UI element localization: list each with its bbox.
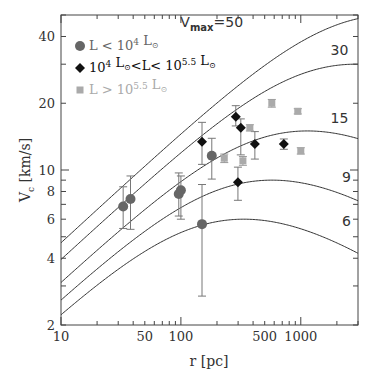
x-tick-label: 50 — [137, 329, 154, 344]
curve-label-15: 15 — [331, 110, 349, 126]
legend-text-part: L < 10 — [89, 38, 133, 53]
data-point-square — [221, 155, 228, 162]
data-point-square — [294, 108, 301, 115]
data-point-diamond — [250, 139, 260, 149]
legend-sun-symbol: ⊙ — [124, 63, 131, 72]
legend-label: L > 105.5 L⊙ — [89, 77, 167, 97]
data-point-circle — [118, 201, 128, 211]
curve-label-sub: max — [190, 22, 214, 33]
y-axis-label-units: [km/s] — [17, 138, 33, 187]
legend-text-part: L — [111, 55, 124, 70]
curve-label-9: 9 — [342, 169, 351, 185]
y-tick-label: 40 — [38, 29, 55, 44]
legend-sun-symbol: ⊙ — [160, 85, 167, 94]
y-tick-label: 6 — [47, 212, 55, 227]
y-tick-label: 20 — [38, 96, 55, 111]
data-point-diamond — [279, 139, 289, 149]
legend-text-part: 10 — [89, 60, 106, 75]
y-axis-label: Vc [km/s] — [17, 138, 36, 203]
x-axis-label: r [pc] — [190, 353, 229, 369]
x-tick-label: 100 — [168, 329, 193, 344]
error-bars — [119, 99, 305, 296]
data-point-circle — [207, 151, 217, 161]
y-tick-label: 4 — [47, 251, 55, 266]
y-tick-label: 10 — [38, 163, 55, 178]
legend-sun-symbol: ⊙ — [209, 61, 216, 70]
curve-vmax-9 — [61, 180, 358, 300]
y-axis-label-text: Vc [km/s] — [17, 138, 36, 203]
data-point-square — [268, 100, 275, 107]
data-point-diamond — [233, 177, 243, 187]
legend-text-part: L > 10 — [89, 82, 133, 97]
legend-label: L < 104 L⊙ — [89, 33, 159, 53]
data-point-circle — [176, 185, 186, 195]
legend-sup: 5.5 — [182, 57, 197, 67]
legend-text-part: L — [139, 33, 152, 48]
legend-marker-diamond — [75, 63, 85, 73]
data-point-square — [246, 124, 253, 131]
y-tick-label: 2 — [47, 318, 55, 333]
curve-label-prefix: V — [180, 14, 190, 30]
curve-label-value: =50 — [214, 14, 244, 30]
legend-marker-circle — [75, 41, 85, 51]
data-point-circle — [126, 194, 136, 204]
data-point-square — [239, 157, 246, 164]
data-point-diamond — [236, 123, 246, 133]
data-point-square — [297, 147, 304, 154]
legend-text-part: <L< 10 — [131, 58, 182, 73]
legend-marker-square — [77, 87, 84, 94]
curve-label-6: 6 — [342, 213, 351, 229]
legend: L < 104 L⊙104 L⊙<L< 105.5 L⊙L > 105.5 L⊙ — [75, 33, 216, 97]
curve-label-50: Vmax=50 — [180, 14, 243, 33]
legend-sup: 5.5 — [133, 81, 148, 91]
rotation-curve-chart: Vmax=50301596 105010050010002468102040 L… — [0, 0, 374, 378]
curve-vmax-6 — [61, 219, 358, 315]
y-tick-label: 8 — [47, 184, 55, 199]
legend-sun-symbol: ⊙ — [152, 41, 159, 50]
x-tick-label: 500 — [252, 329, 277, 344]
legend-text-part: L — [196, 53, 209, 68]
curve-label-30: 30 — [331, 42, 349, 58]
legend-text-part: L — [148, 77, 161, 92]
x-tick-label: 10 — [53, 329, 70, 344]
data-point-circle — [197, 219, 207, 229]
legend-label: 104 L⊙<L< 105.5 L⊙ — [89, 53, 216, 75]
x-tick-label: 1000 — [284, 329, 317, 344]
curve-labels: Vmax=50301596 — [180, 14, 351, 229]
